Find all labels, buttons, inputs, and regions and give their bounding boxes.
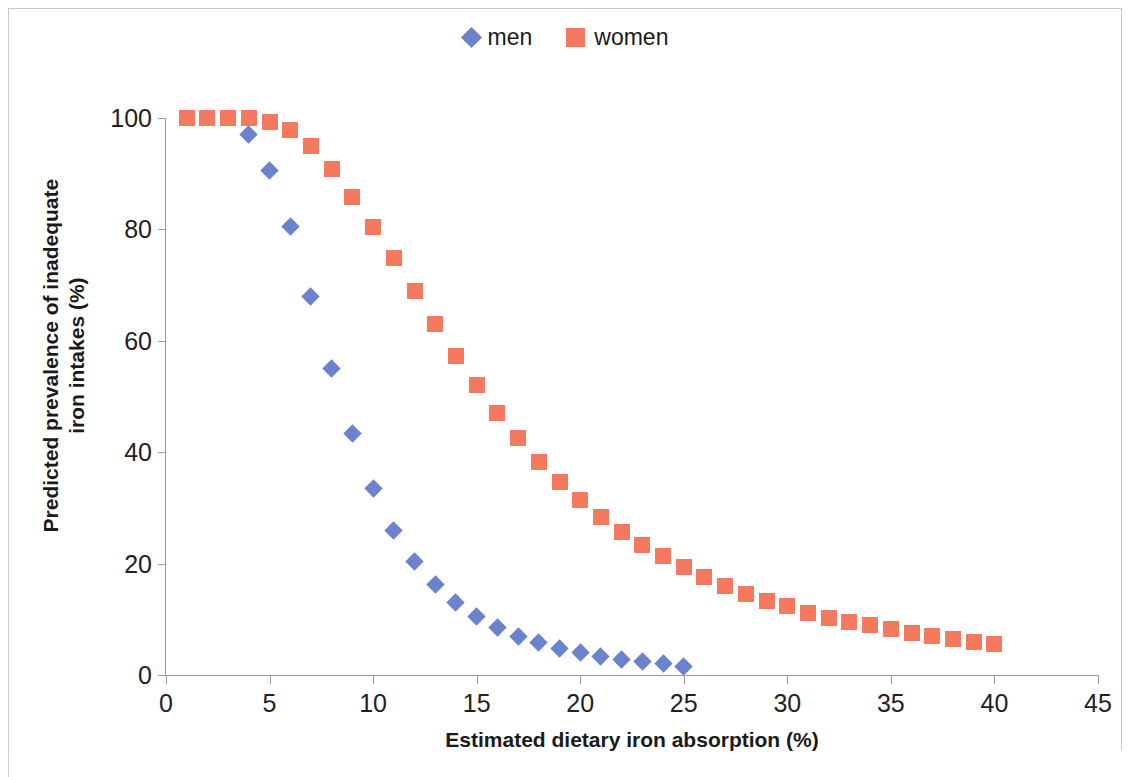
x-tick-mark [373, 675, 374, 684]
x-tick-mark [580, 675, 581, 684]
data-point [759, 593, 775, 609]
data-point [841, 614, 857, 630]
data-point [966, 634, 982, 650]
data-point [779, 598, 795, 614]
x-tick-mark [891, 675, 892, 684]
data-point [405, 552, 423, 570]
data-point [530, 633, 548, 651]
x-tick-mark [994, 675, 995, 684]
data-point [738, 586, 754, 602]
y-tick-mark [158, 341, 166, 342]
data-point [322, 359, 340, 377]
x-tick-label: 40 [981, 689, 1009, 718]
x-tick-mark [787, 675, 788, 684]
data-point [676, 559, 692, 575]
y-tick-label: 80 [124, 215, 152, 244]
data-point [572, 492, 588, 508]
data-point [510, 430, 526, 446]
y-axis-title-line-2: iron intakes (%) [64, 96, 90, 616]
y-tick-mark [158, 675, 166, 676]
data-point [614, 524, 630, 540]
data-point [427, 316, 443, 332]
y-tick-mark [158, 564, 166, 565]
x-tick-label: 15 [463, 689, 491, 718]
data-point [654, 655, 672, 673]
data-point [364, 479, 382, 497]
y-tick-label: 40 [124, 438, 152, 467]
x-tick-mark [684, 675, 685, 684]
x-tick-label: 0 [159, 689, 173, 718]
legend-square-icon [566, 28, 585, 47]
figure-border-tail [8, 750, 9, 777]
data-point [633, 652, 651, 670]
data-point [386, 250, 402, 266]
x-axis-title: Estimated dietary iron absorption (%) [166, 728, 1098, 752]
data-point [447, 593, 465, 611]
data-point [199, 110, 215, 126]
x-tick-label: 25 [670, 689, 698, 718]
data-point [675, 657, 693, 675]
data-point [862, 617, 878, 633]
x-tick-label: 20 [566, 689, 594, 718]
data-point [324, 161, 340, 177]
x-tick-mark [166, 675, 167, 684]
data-point [220, 110, 236, 126]
data-point [489, 405, 505, 421]
y-tick-label: 0 [138, 661, 152, 690]
data-point [282, 122, 298, 138]
data-point [945, 631, 961, 647]
data-point [179, 110, 195, 126]
y-axis-title: Predicted prevalence of inadequate iron … [38, 96, 89, 616]
data-point [593, 509, 609, 525]
data-point [924, 628, 940, 644]
data-point [240, 126, 258, 144]
data-point [552, 474, 568, 490]
legend-item-women[interactable]: women [566, 24, 668, 51]
data-point [592, 647, 610, 665]
x-axis-line [165, 675, 1099, 676]
data-point [343, 425, 361, 443]
plot-area: 020406080100 051015202530354045 [166, 118, 1098, 675]
chart-legend: menwomen [0, 24, 1132, 51]
data-point [365, 219, 381, 235]
data-point [904, 625, 920, 641]
data-point [241, 110, 257, 126]
data-point [303, 138, 319, 154]
x-tick-mark [477, 675, 478, 684]
x-tick-label: 35 [877, 689, 905, 718]
data-point [407, 283, 423, 299]
y-tick-label: 60 [124, 326, 152, 355]
data-point [509, 627, 527, 645]
data-point [821, 610, 837, 626]
data-point [260, 162, 278, 180]
data-point [469, 377, 485, 393]
data-point [488, 618, 506, 636]
legend-item-label: women [594, 24, 668, 51]
y-axis-title-line-1: Predicted prevalence of inadequate [38, 96, 64, 616]
x-tick-label: 10 [359, 689, 387, 718]
x-tick-label: 30 [773, 689, 801, 718]
data-point [571, 644, 589, 662]
legend-item-men[interactable]: men [464, 24, 533, 51]
data-point [550, 639, 568, 657]
y-axis-line [165, 118, 166, 676]
y-tick-label: 20 [124, 549, 152, 578]
data-point [426, 576, 444, 594]
y-tick-mark [158, 229, 166, 230]
x-tick-label: 5 [263, 689, 277, 718]
data-point [531, 454, 547, 470]
data-point [385, 521, 403, 539]
chart-figure: menwomen Predicted prevalence of inadequ… [0, 0, 1132, 777]
data-point [344, 189, 360, 205]
data-point [696, 569, 712, 585]
y-tick-mark [158, 452, 166, 453]
x-tick-mark [270, 675, 271, 684]
data-point [717, 578, 733, 594]
x-tick-label: 45 [1084, 689, 1112, 718]
legend-item-label: men [488, 24, 533, 51]
legend-diamond-icon [460, 27, 481, 48]
data-point [800, 605, 816, 621]
data-point [986, 636, 1002, 652]
data-point [467, 607, 485, 625]
x-tick-mark [1098, 675, 1099, 684]
